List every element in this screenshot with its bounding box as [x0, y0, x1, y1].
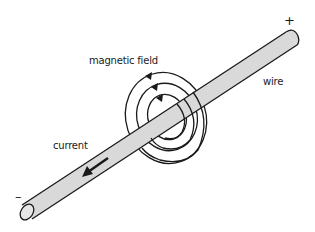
field-arrow-icons [145, 72, 163, 102]
wire-label: wire [263, 76, 283, 87]
field-arrow-outer-icon [145, 72, 152, 80]
positive-terminal-label: + [284, 14, 295, 27]
current-label: current [53, 140, 88, 151]
field-arrow-middle-icon [151, 83, 158, 91]
negative-terminal-label: – [15, 190, 22, 203]
wire [17, 30, 298, 222]
wire-body [22, 32, 297, 219]
magnetic-field-label: magnetic field [89, 55, 158, 66]
diagram-canvas [0, 0, 315, 232]
